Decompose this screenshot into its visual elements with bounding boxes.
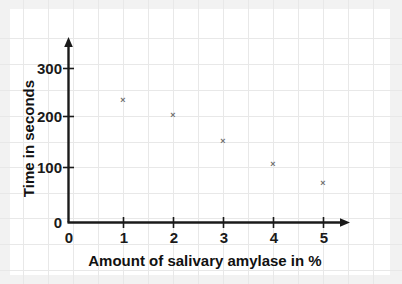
x-axis-title: Amount of salivary amylase in % — [40, 252, 370, 269]
data-point-5: × — [320, 179, 325, 188]
data-point-1: × — [120, 96, 125, 105]
data-point-3: × — [220, 137, 225, 146]
data-point-2: × — [170, 111, 175, 120]
data-point-4: × — [270, 160, 275, 169]
y-axis-title: Time in seconds — [20, 64, 37, 214]
data-points-layer: × × × × × — [0, 0, 402, 284]
scatter-plot-figure: 300 200 100 0 0 1 2 3 4 5 × × × × × Time… — [0, 0, 402, 284]
